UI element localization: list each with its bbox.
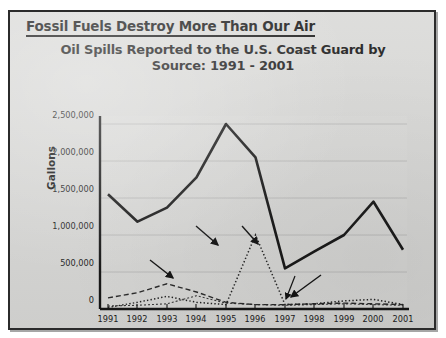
chart-svg [10, 12, 438, 332]
slide-canvas: Fossil Fuels Destroy More Than Our Air O… [8, 10, 436, 330]
plot-background [100, 116, 407, 309]
chart-plot-area: Gallons 0 500,000 1,000,000 1,500,000 2,… [10, 12, 438, 332]
